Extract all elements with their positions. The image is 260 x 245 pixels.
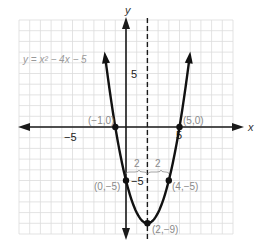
- curve-left-arrow-icon: [102, 51, 110, 63]
- parabola-graph: x y −5 5 5 −5 y = x² − 4x − 5 2 2 (−1,0)…: [0, 0, 260, 245]
- y-axis-label: y: [124, 4, 132, 16]
- y-tick-label-neg5: −5: [131, 175, 144, 187]
- point-label-5-0: (5,0): [183, 115, 204, 126]
- point-label-4-neg5: (4,−5): [172, 181, 198, 192]
- brace-right-label: 2: [155, 158, 161, 169]
- point-label-2-neg9: (2,−9): [152, 224, 178, 235]
- point-label-neg1-0: (−1,0): [88, 115, 114, 126]
- x-axis-label: x: [247, 121, 254, 133]
- brace-left-label: 2: [134, 158, 140, 169]
- x-axis-left-arrow-icon: [18, 123, 30, 131]
- x-axis-right-arrow-icon: [232, 123, 244, 131]
- curve-right-arrow-icon: [185, 51, 193, 63]
- equation-label: y = x² − 4x − 5: [22, 54, 87, 65]
- x-tick-label-neg5: −5: [64, 131, 77, 143]
- key-point: [123, 177, 129, 183]
- y-axis-up-arrow-icon: [122, 17, 130, 29]
- y-tick-label-5: 5: [131, 68, 137, 80]
- key-point: [144, 220, 150, 226]
- point-label-0-neg5: (0,−5): [94, 181, 120, 192]
- axes: x y: [18, 4, 254, 240]
- key-point: [176, 124, 182, 130]
